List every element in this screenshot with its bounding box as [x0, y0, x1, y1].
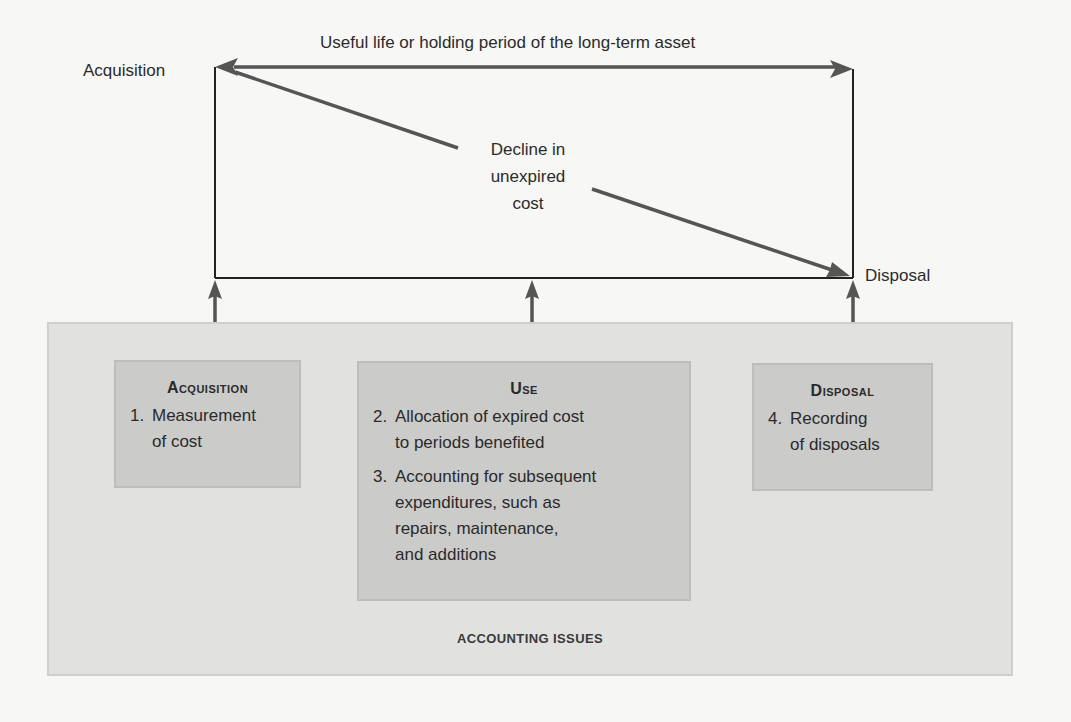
disposal-stage-box: Disposal 4. Recording of disposals: [752, 363, 933, 491]
decline-label-line: cost: [468, 190, 588, 217]
issue-text-line: repairs, maintenance,: [395, 516, 689, 542]
use-stage-box: Use 2. Allocation of expired cost to per…: [357, 361, 691, 601]
issue-text-line: and additions: [395, 542, 689, 568]
issue-number: 2.: [373, 404, 387, 430]
issue-text-line: Recording: [790, 406, 931, 432]
issue-item: 2. Allocation of expired cost to periods…: [359, 404, 689, 456]
issue-text-line: Allocation of expired cost: [395, 404, 689, 430]
accounting-issues-label: ACCOUNTING ISSUES: [47, 631, 1013, 646]
issue-text-line: of cost: [152, 429, 299, 455]
stage-title: Acquisition: [116, 379, 299, 397]
issue-number: 4.: [768, 406, 782, 432]
decline-label-line: Decline in: [468, 136, 588, 163]
disposal-point-label: Disposal: [865, 266, 930, 286]
issue-item: 3. Accounting for subsequent expenditure…: [359, 464, 689, 568]
issue-number: 3.: [373, 464, 387, 490]
useful-life-label: Useful life or holding period of the lon…: [320, 33, 695, 53]
stage-title: Use: [359, 380, 689, 398]
acquisition-stage-box: Acquisition 1. Measurement of cost: [114, 360, 301, 488]
acquisition-point-label: Acquisition: [83, 61, 165, 81]
decline-label-line: unexpired: [468, 163, 588, 190]
issue-text-line: Accounting for subsequent: [395, 464, 689, 490]
stage-title: Disposal: [754, 382, 931, 400]
issue-item: 4. Recording of disposals: [754, 406, 931, 458]
issue-text-line: of disposals: [790, 432, 931, 458]
useful-life-arrow: [215, 58, 853, 78]
issue-number: 1.: [130, 403, 144, 429]
issue-text-line: expenditures, such as: [395, 490, 689, 516]
decline-label: Decline in unexpired cost: [468, 136, 588, 217]
issue-item: 1. Measurement of cost: [116, 403, 299, 455]
issue-text-line: to periods benefited: [395, 430, 689, 456]
issue-text-line: Measurement: [152, 403, 299, 429]
